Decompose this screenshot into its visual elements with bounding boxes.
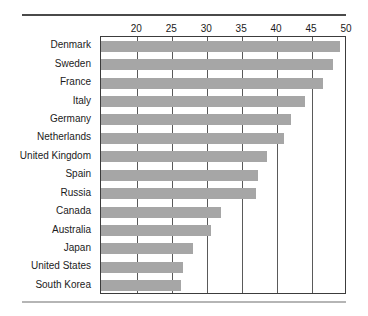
x-tick-label: 45 (305, 22, 316, 35)
x-tick-label: 30 (201, 22, 212, 35)
x-tick-label: 40 (271, 22, 282, 35)
gridline (172, 37, 173, 293)
y-tick-label: Netherlands (0, 131, 96, 143)
y-tick-label: Australia (0, 224, 96, 236)
top-rule (22, 14, 346, 16)
y-tick-label: United Kingdom (0, 150, 96, 162)
bar (101, 96, 305, 107)
gridline (137, 37, 138, 293)
y-tick-label: Denmark (0, 39, 96, 51)
bar (101, 78, 323, 89)
y-tick-label: Italy (0, 95, 96, 107)
bar (101, 207, 221, 218)
gridline (242, 37, 243, 293)
y-tick-label: Japan (0, 242, 96, 254)
bar (101, 280, 181, 291)
x-axis-tick-labels: 20253035404550 (100, 22, 346, 36)
gridline (277, 37, 278, 293)
x-tick-label: 50 (340, 22, 351, 35)
y-tick-label: Russia (0, 187, 96, 199)
bar (101, 243, 193, 254)
bar (101, 114, 291, 125)
bar (101, 41, 340, 52)
gridline (312, 37, 313, 293)
bar (101, 170, 258, 181)
x-tick-label: 35 (236, 22, 247, 35)
x-tick-label: 25 (166, 22, 177, 35)
y-tick-label: Spain (0, 168, 96, 180)
y-tick-label: United States (0, 260, 96, 272)
bar (101, 262, 183, 273)
gridline (207, 37, 208, 293)
bar-chart-figure: 20253035404550 DenmarkSwedenFranceItalyG… (0, 0, 368, 316)
x-tick-label: 20 (131, 22, 142, 35)
y-tick-label: Sweden (0, 58, 96, 70)
bar (101, 59, 333, 70)
y-tick-label: Canada (0, 205, 96, 217)
bar (101, 225, 211, 236)
y-tick-label: France (0, 76, 96, 88)
bottom-rule (22, 301, 346, 303)
bar (101, 151, 267, 162)
bar (101, 188, 256, 199)
plot-area (100, 36, 346, 294)
y-axis-category-labels: DenmarkSwedenFranceItalyGermanyNetherlan… (0, 36, 96, 294)
y-tick-label: South Korea (0, 279, 96, 291)
y-tick-label: Germany (0, 113, 96, 125)
bar (101, 133, 284, 144)
